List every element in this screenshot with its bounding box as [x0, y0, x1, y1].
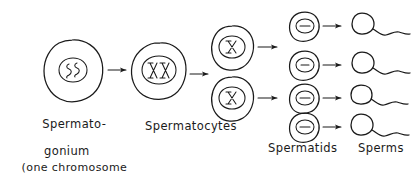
arrow-spermatogonium-to-spermatocyte	[108, 67, 126, 72]
cell-spermatid-2	[290, 51, 320, 80]
cell-spermatid-4	[290, 113, 320, 142]
primary-spermatocyte-nucleus	[142, 56, 176, 84]
sperm-3-tail	[371, 99, 408, 105]
label-chromosome-note: (one chromosome pair shown )	[6, 147, 127, 189]
cell-sperm-4	[351, 114, 409, 136]
sperm-2-tail	[373, 68, 410, 74]
label-spermatogonium-line1: Spermato-	[42, 117, 106, 131]
sperm-4-head	[351, 114, 373, 135]
label-note-line1: (one chromosome	[22, 161, 128, 174]
sperm-1-head	[352, 13, 374, 34]
arrow-spermatid-1-to-sperm	[323, 23, 341, 28]
chromosome-x-single-2	[226, 92, 236, 104]
sperm-2-head	[352, 52, 374, 73]
chromosome-x-left	[148, 63, 157, 78]
cell-spermatid-1	[290, 12, 320, 41]
cell-sperm-2	[352, 52, 410, 74]
chromosome-x-single-1	[226, 41, 236, 53]
sperm-4-tail	[372, 130, 409, 136]
spermatogenesis-diagram: Spermato- gonium (one chromosome pair sh…	[0, 0, 419, 189]
arrow-spermatid-3-to-sperm	[323, 95, 341, 100]
arrow-spermatid-4-to-sperm	[323, 124, 341, 129]
spermatid-2-membrane	[290, 51, 320, 80]
cell-sperm-3	[351, 85, 408, 105]
spermatid-4-membrane	[290, 113, 320, 142]
label-sperms: Sperms	[358, 142, 404, 156]
cell-secondary-spermatocyte-2	[212, 77, 254, 121]
spermatid-3-membrane	[290, 84, 320, 113]
arrow-secondary-1-to-spermatid	[258, 44, 277, 49]
label-note-line2: pair shown )	[6, 188, 127, 190]
cell-spermatid-3	[290, 84, 320, 113]
label-spermatocytes: Spermatocytes	[145, 120, 237, 134]
cell-primary-spermatocyte	[131, 43, 185, 99]
arrow-secondary-2-to-spermatid	[258, 95, 277, 100]
chromosome-x-right	[160, 63, 169, 78]
label-spermatids: Spermatids	[268, 142, 337, 156]
sperm-1-tail	[373, 29, 410, 35]
sperm-3-head	[351, 85, 372, 104]
arrow-spermatid-2-to-sperm	[323, 62, 341, 67]
spermatogonium-membrane	[44, 40, 103, 102]
spermatogonium-nucleus	[59, 58, 87, 82]
cell-sperm-1	[352, 13, 410, 35]
cell-secondary-spermatocyte-1	[212, 26, 254, 70]
chromosome-squiggle-2	[75, 63, 80, 77]
cell-spermatogonium	[44, 40, 103, 102]
chromosome-squiggle-1	[67, 64, 72, 78]
arrow-spermatocyte-to-secondary	[190, 71, 208, 76]
spermatid-1-membrane	[290, 12, 320, 41]
primary-spermatocyte-membrane	[131, 43, 185, 99]
